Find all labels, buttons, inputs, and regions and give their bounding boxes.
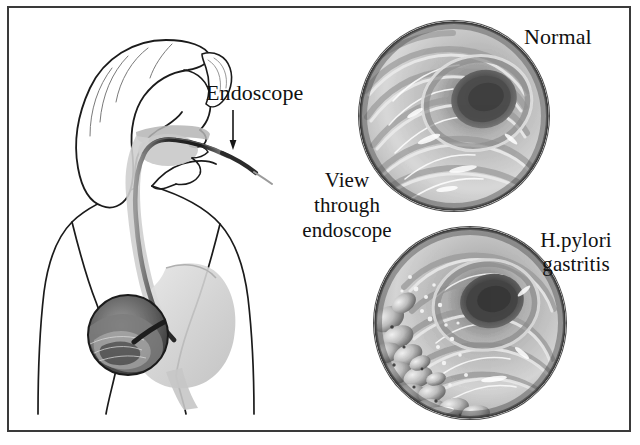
endoscope-shaft-taper	[254, 172, 272, 184]
hpylori-gastritis-label: H.pylori gastritis	[516, 228, 636, 277]
normal-label: Normal	[524, 26, 592, 49]
down-arrow-icon	[228, 110, 238, 150]
endoscope-label: Endoscope	[206, 82, 303, 105]
endoscopy-figure: Endoscope View through endoscope	[0, 0, 640, 445]
endoscope-shaft	[222, 153, 256, 173]
anatomy-illustration	[16, 10, 276, 422]
scope-view-normal	[359, 21, 549, 211]
